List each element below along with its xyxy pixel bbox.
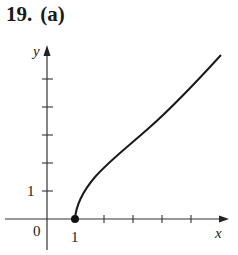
y-tick-label-1: 1 — [27, 183, 35, 199]
x-axis-label: x — [214, 225, 222, 241]
chart-canvas: y x 0 1 1 — [0, 0, 238, 255]
start-point-dot — [71, 215, 79, 223]
origin-label: 0 — [33, 223, 41, 239]
curve-line — [75, 55, 221, 219]
y-axis-label: y — [31, 43, 40, 59]
x-axis-arrow-icon — [219, 216, 229, 223]
x-tick-label-1: 1 — [71, 229, 79, 245]
y-axis-arrow-icon — [44, 45, 51, 56]
